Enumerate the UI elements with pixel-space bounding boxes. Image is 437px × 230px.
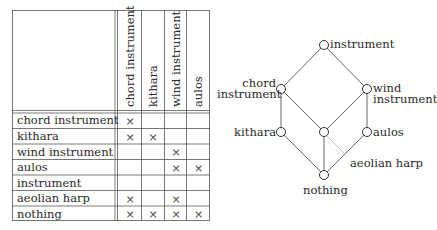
node-label-nothing: nothing [303, 184, 348, 196]
formal-context-table: chord instrument kithara wind instrument… [12, 10, 210, 221]
node-label-aulos: aulos [373, 126, 404, 138]
cross-mark: × [188, 161, 210, 176]
row-label-nothing: nothing [17, 207, 62, 222]
column-header-kithara: kithara [146, 65, 160, 107]
row-label-chord-instrument: chord instrument [17, 113, 119, 128]
node-nothing [320, 171, 329, 180]
cross-mark: × [142, 207, 164, 222]
cross-mark: × [188, 207, 210, 222]
node-wind-instrument [363, 85, 372, 94]
cross-mark: × [165, 207, 187, 222]
cross-mark: × [165, 161, 187, 176]
node-aeolian-harp [320, 128, 329, 137]
column-header-aulos: aulos [191, 76, 205, 107]
row-label-aeolian-harp: aeolian harp [17, 191, 90, 206]
aeolian-harp-leader-line [327, 136, 344, 153]
node-instrument [320, 41, 329, 50]
row-label-kithara: kithara [17, 129, 59, 144]
column-header-wind-instrument: wind instrument [169, 11, 183, 107]
cross-mark: × [119, 192, 141, 207]
concept-lattice: instrument chord instrument wind instrum… [240, 0, 437, 230]
cross-mark: × [119, 207, 141, 222]
row-label-aulos: aulos [17, 160, 48, 175]
node-label-instrument: instrument [330, 38, 394, 50]
node-label-kithara: kithara [220, 126, 276, 138]
column-header-chord-instrument: chord instrument [123, 5, 137, 107]
node-label-aeolian-harp: aeolian harp [350, 157, 423, 169]
cross-mark: × [119, 130, 141, 145]
node-kithara [277, 128, 286, 137]
cross-mark: × [165, 192, 187, 207]
node-aulos [363, 128, 372, 137]
cross-mark: × [119, 114, 141, 129]
row-label-wind-instrument: wind instrument [17, 145, 113, 160]
cross-mark: × [142, 130, 164, 145]
cross-mark: × [165, 145, 187, 160]
row-label-instrument: instrument [17, 176, 81, 191]
node-label-chord-line2: instrument [217, 88, 276, 100]
node-label-wind-line2: instrument [373, 93, 437, 105]
